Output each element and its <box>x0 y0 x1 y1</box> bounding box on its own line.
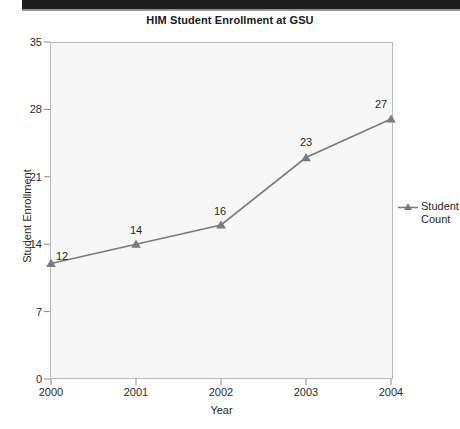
legend-label-line2: Count <box>421 213 450 225</box>
legend-label-student-count: Student Count <box>421 200 460 226</box>
point-label-2000: 12 <box>56 250 68 262</box>
legend-label-line1: Student <box>421 200 459 212</box>
point-label-2004: 27 <box>375 98 387 110</box>
legend-marker-icon <box>398 201 418 214</box>
chart-legend: Student Count <box>398 200 460 226</box>
data-point-2004 <box>386 114 396 122</box>
point-label-2003: 23 <box>300 136 312 148</box>
point-label-2001: 14 <box>130 224 142 236</box>
series-markers-student-count <box>46 114 396 267</box>
point-label-2002: 16 <box>214 205 226 217</box>
series-line-student-count <box>51 119 391 263</box>
series-canvas <box>0 0 460 429</box>
chart-page: HIM Student Enrollment at GSU 0 7 14 21 … <box>0 0 460 429</box>
data-point-2003 <box>301 153 311 161</box>
